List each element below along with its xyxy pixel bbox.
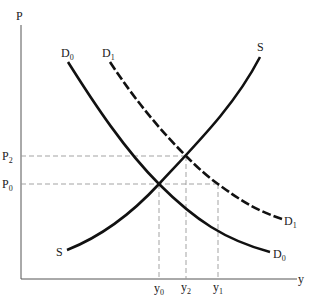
d1-label-top: D1	[102, 46, 115, 62]
y1-label: y1	[213, 280, 223, 296]
p0-label: P0	[2, 177, 13, 193]
p2-label: P2	[2, 149, 13, 165]
d0-label-end: D0	[273, 247, 286, 263]
demand-curve-d1	[110, 62, 282, 219]
d1-label-end: D1	[284, 214, 297, 230]
supply-label-bottom: S	[56, 245, 63, 259]
y2-label: y2	[181, 280, 191, 296]
supply-label-top: S	[257, 40, 264, 54]
guide-lines	[21, 156, 218, 279]
y-axis-label: P	[16, 9, 23, 23]
y0-label: y0	[154, 281, 164, 297]
supply-curve	[67, 57, 260, 250]
d0-label-top: D0	[61, 46, 74, 62]
supply-demand-diagram: P y P2 P0 y0 y2 y1 S S D0 D1 D1 D0	[0, 0, 315, 301]
x-axis-label: y	[298, 272, 304, 286]
